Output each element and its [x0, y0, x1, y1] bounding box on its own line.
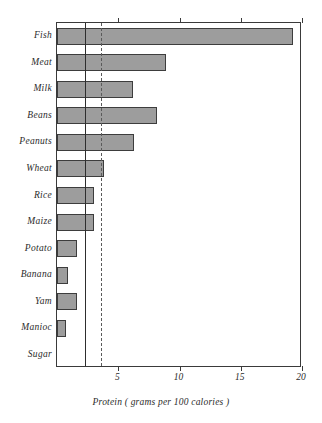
bar-rice: [57, 187, 94, 204]
category-label-yam: Yam: [0, 296, 52, 306]
bar-meat: [57, 54, 166, 71]
category-label-wheat: Wheat: [0, 163, 52, 173]
category-label-fish: Fish: [0, 30, 52, 40]
x-tick-top-5: [118, 18, 119, 23]
bar-potato: [57, 240, 77, 257]
bar-manioc: [57, 320, 66, 337]
bar-beans: [57, 107, 157, 124]
bar-wheat: [57, 160, 104, 177]
reference-line-solid: [85, 23, 86, 366]
x-tick-label-20: 20: [296, 372, 306, 382]
bar-maize: [57, 214, 94, 231]
x-tick-label-15: 15: [235, 372, 245, 382]
category-label-meat: Meat: [0, 57, 52, 67]
reference-line-dashed: [101, 23, 102, 366]
x-tick-top-10: [180, 18, 181, 23]
bar-fish: [57, 28, 293, 45]
x-tick-bottom-20: [302, 366, 303, 371]
category-label-maize: Maize: [0, 216, 52, 226]
category-label-peanuts: Peanuts: [0, 136, 52, 146]
x-tick-label-10: 10: [174, 372, 184, 382]
x-tick-bottom-15: [241, 366, 242, 371]
plot-area: [56, 22, 301, 367]
bar-banana: [57, 267, 68, 284]
category-label-potato: Potato: [0, 243, 52, 253]
category-label-beans: Beans: [0, 110, 52, 120]
x-tick-top-15: [241, 18, 242, 23]
category-label-manioc: Manioc: [0, 322, 52, 332]
bar-milk: [57, 81, 133, 98]
x-tick-bottom-5: [118, 366, 119, 371]
category-label-milk: Milk: [0, 83, 52, 93]
category-label-sugar: Sugar: [0, 349, 52, 359]
bar-peanuts: [57, 134, 134, 151]
category-axis: FishMeatMilkBeansPeanutsWheatRiceMaizePo…: [0, 22, 52, 367]
category-label-rice: Rice: [0, 190, 52, 200]
x-tick-top-20: [302, 18, 303, 23]
x-axis-caption: Protein ( grams per 100 calories ): [0, 397, 322, 407]
category-label-banana: Banana: [0, 269, 52, 279]
bar-yam: [57, 293, 77, 310]
protein-bar-chart: FishMeatMilkBeansPeanutsWheatRiceMaizePo…: [0, 0, 322, 423]
x-tick-bottom-10: [180, 366, 181, 371]
x-tick-label-5: 5: [115, 372, 120, 382]
